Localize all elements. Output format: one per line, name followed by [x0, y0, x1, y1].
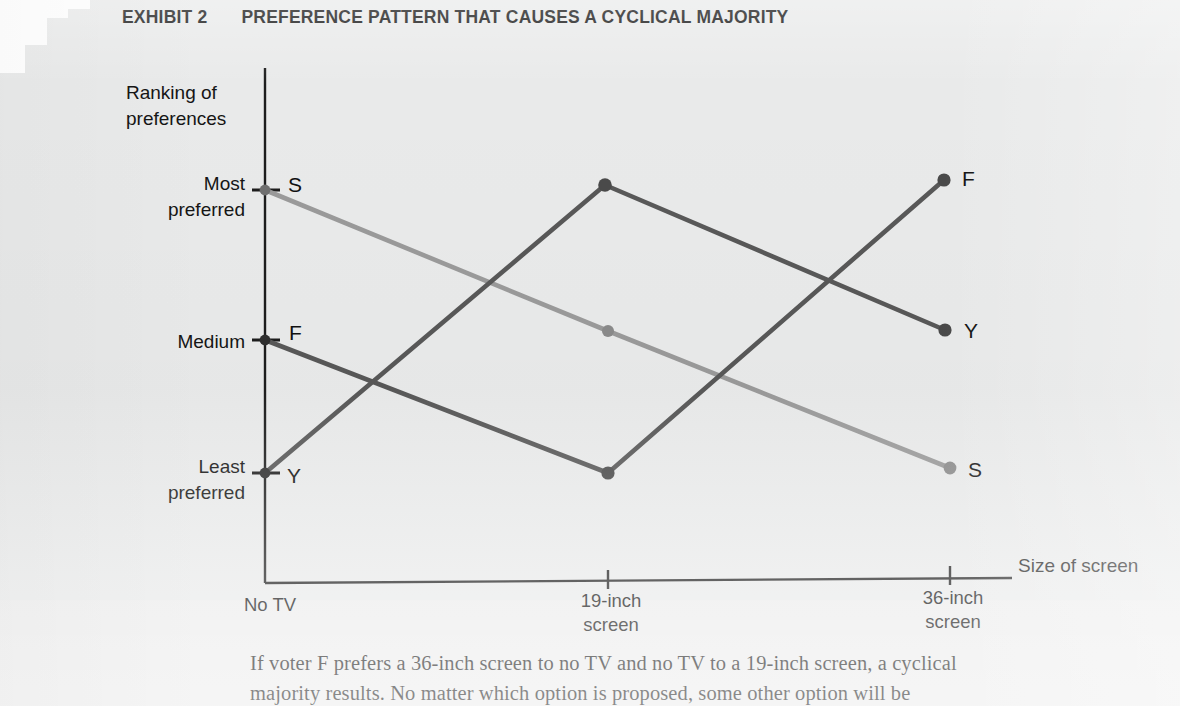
y-label-most-line2: preferred: [168, 199, 245, 220]
series-label-f-end: F: [962, 167, 975, 190]
scanned-page: EXHIBIT 2PREFERENCE PATTERN THAT CAUSES …: [0, 0, 1180, 706]
preference-chart-svg: Ranking of preferences Most preferred Me…: [0, 0, 1180, 660]
series-label-y-start: Y: [287, 464, 301, 487]
y-label-least-line2: preferred: [168, 482, 245, 503]
x-label-no-tv: No TV: [244, 594, 297, 615]
series-point-y-start: [260, 468, 271, 479]
figure-caption: If voter F prefers a 36-inch screen to n…: [250, 648, 1180, 706]
series-label-s-end: S: [968, 458, 982, 481]
y-axis-title-line2: preferences: [126, 108, 226, 129]
chart-plot-area: Ranking of preferences Most preferred Me…: [0, 0, 1180, 660]
series-point-s-mid: [602, 325, 614, 337]
series-point-y-end: [938, 323, 951, 336]
series-point-f-mid: [601, 466, 614, 479]
y-label-least-line1: Least: [199, 456, 246, 477]
y-label-medium: Medium: [177, 331, 245, 352]
series-label-s-start: S: [288, 173, 302, 196]
series-point-s-end: [944, 462, 957, 475]
x-label-19inch-line2: screen: [583, 614, 639, 635]
series-point-y-mid: [598, 178, 612, 192]
x-label-36inch-line2: screen: [925, 611, 981, 632]
series-point-s-start: [260, 185, 271, 196]
series-label-y-end: Y: [964, 319, 978, 342]
x-label-36inch-line1: 36-inch: [923, 587, 984, 608]
series-label-f-start: F: [289, 321, 302, 344]
caption-line-2: majority results. No matter which option…: [250, 678, 1180, 706]
x-axis-title: Size of screen: [1018, 555, 1138, 576]
x-axis-line: [265, 578, 1012, 583]
caption-line-1: If voter F prefers a 36-inch screen to n…: [250, 648, 1180, 678]
y-axis-title-line1: Ranking of: [126, 82, 218, 103]
x-label-19inch-line1: 19-inch: [581, 590, 642, 611]
y-label-most-line1: Most: [204, 173, 246, 194]
series-point-f-start: [260, 335, 271, 346]
series-point-f-end: [937, 173, 950, 186]
